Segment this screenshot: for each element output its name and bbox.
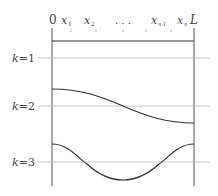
label-xn1: x [151,14,158,27]
label-xn-sub: n [184,21,187,27]
mode-label-k2: k=2 [12,100,35,113]
mode-label-k1: k=1 [12,52,35,65]
label-dots: . . . [115,15,131,26]
label-L: L [189,13,198,27]
standing-wave-modes-diagram: 0 x 1 x 2 . . . x n-1 x n L k=1 k=2 k=3 [0,0,218,196]
label-x1: x [61,14,68,27]
label-x2: x [84,14,91,27]
label-x1-sub: 1 [68,20,72,27]
label-xn: x [177,14,184,27]
mode-label-k3: k=3 [12,156,35,169]
label-zero: 0 [49,13,57,27]
label-xn1-sub: n-1 [158,21,166,27]
label-x2-sub: 2 [91,20,95,27]
